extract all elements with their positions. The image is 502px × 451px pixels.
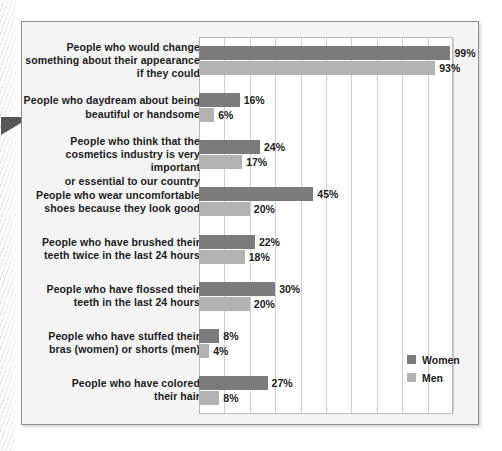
category-label: People who have coloredtheir hair (20, 377, 200, 403)
bar-value-label: 24% (264, 140, 285, 154)
category-label-line: People who have brushed their (20, 236, 200, 249)
bar-chart: People who would changesomething about t… (22, 22, 480, 426)
category-label: People who wear uncomfortableshoes becau… (20, 189, 200, 215)
category-label-line: People who have stuffed their (20, 330, 200, 343)
chart-row: People who have flossed theirteeth in th… (22, 273, 480, 320)
bar-value-label: 20% (254, 202, 275, 216)
bar-women (199, 376, 268, 390)
category-label-line: if they could (20, 67, 200, 80)
chart-row: People who have brushed theirteeth twice… (22, 226, 480, 273)
category-label-line: beautiful or handsome (20, 108, 200, 121)
bar-men (199, 202, 250, 216)
chart-row: People who would changesomething about t… (22, 37, 480, 84)
bar-value-label: 4% (213, 344, 228, 358)
legend-item-men: Men (407, 370, 460, 385)
category-label-line: People who think that the (20, 135, 200, 148)
bar-women (199, 282, 275, 296)
chart-row: People who think that thecosmetics indus… (22, 131, 480, 178)
bar-women (199, 46, 450, 60)
figure-frame: People who would changesomething about t… (21, 21, 479, 425)
category-label-line: teeth twice in the last 24 hours (20, 249, 200, 262)
category-label-line: People who daydream about being (20, 94, 200, 107)
bar-value-label: 20% (254, 297, 275, 311)
bar-value-label: 99% (454, 46, 475, 60)
category-label: People who have stuffed theirbras (women… (20, 330, 200, 356)
men-swatch-icon (407, 373, 416, 382)
category-label-line: cosmetics industry is very important (20, 148, 200, 174)
category-label: People who have flossed theirteeth in th… (20, 283, 200, 309)
chart-row: People who daydream about beingbeautiful… (22, 84, 480, 131)
bar-value-label: 22% (259, 235, 280, 249)
category-label-line: bras (women) or shorts (men) (20, 343, 200, 356)
bar-men (199, 391, 219, 405)
bar-men (199, 297, 250, 311)
bar-men (199, 61, 435, 75)
bar-value-label: 93% (439, 61, 460, 75)
bar-value-label: 8% (223, 329, 238, 343)
bar-value-label: 8% (223, 391, 238, 405)
bar-women (199, 187, 313, 201)
legend-label-men: Men (422, 372, 443, 384)
chart-row: People who wear uncomfortableshoes becau… (22, 178, 480, 225)
legend-item-women: Women (407, 352, 460, 367)
category-label: People who daydream about beingbeautiful… (20, 94, 200, 120)
category-label-line: People who have colored (20, 377, 200, 390)
bar-women (199, 235, 255, 249)
category-label-line: their hair (20, 390, 200, 403)
category-label-line: People who wear uncomfortable (20, 189, 200, 202)
bar-value-label: 30% (279, 282, 300, 296)
women-swatch-icon (407, 355, 416, 364)
category-label-line: teeth in the last 24 hours (20, 296, 200, 309)
category-label-line: People who have flossed their (20, 283, 200, 296)
bar-value-label: 6% (218, 108, 233, 122)
category-label-line: shoes because they look good (20, 202, 200, 215)
bar-men (199, 155, 242, 169)
bar-men (199, 108, 214, 122)
bar-men (199, 344, 209, 358)
bar-women (199, 329, 219, 343)
category-label: People who would changesomething about t… (20, 41, 200, 81)
legend-label-women: Women (422, 354, 460, 366)
bar-women (199, 140, 260, 154)
chart-legend: Women Men (407, 352, 460, 388)
category-label: People who have brushed theirteeth twice… (20, 236, 200, 262)
bar-value-label: 18% (249, 250, 270, 264)
bar-value-label: 17% (246, 155, 267, 169)
bar-value-label: 16% (244, 93, 265, 107)
bar-women (199, 93, 240, 107)
category-label-line: something about their appearance (20, 54, 200, 67)
bar-men (199, 250, 245, 264)
bar-value-label: 27% (272, 376, 293, 390)
bar-value-label: 45% (317, 187, 338, 201)
category-label-line: People who would change (20, 41, 200, 54)
